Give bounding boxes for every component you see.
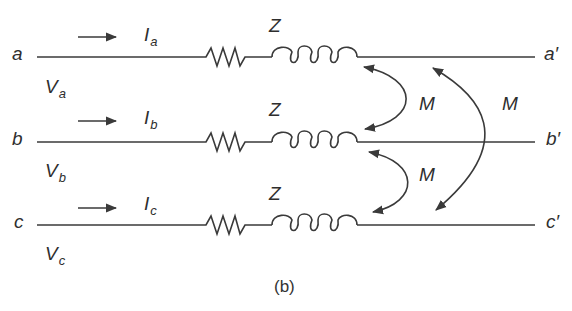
phase-line-c (37, 214, 535, 234)
inductor-a-icon (272, 46, 357, 63)
resistor-a-icon (200, 48, 272, 66)
node-label-c-prime: c′ (546, 212, 559, 231)
node-label-b: b (12, 129, 23, 148)
circuit-diagram (0, 0, 572, 311)
voltage-label-c: Vc (45, 244, 65, 263)
impedance-label-b: Z (269, 100, 281, 119)
resistor-b-icon (200, 133, 272, 151)
node-label-a-prime: a′ (544, 44, 558, 63)
current-label-a: Ia (144, 25, 158, 44)
mutual-arrow-bc-icon (369, 152, 408, 212)
mutual-label-ab: M (419, 94, 435, 113)
mutual-arrow-ac-icon (433, 68, 485, 210)
voltage-label-a: Va (45, 77, 66, 96)
resistor-c-icon (200, 216, 272, 234)
mutual-label-ac: M (502, 94, 518, 113)
inductor-c-icon (272, 214, 357, 231)
node-label-a: a (12, 44, 23, 63)
impedance-label-c: Z (269, 184, 281, 203)
impedance-label-a: Z (269, 16, 281, 35)
mutual-label-bc: M (419, 165, 435, 184)
inductor-b-icon (272, 131, 357, 148)
voltage-label-b: Vb (45, 161, 66, 180)
mutual-arrow-ab-icon (364, 67, 406, 129)
figure-caption: (b) (274, 278, 295, 295)
current-label-b: Ib (144, 108, 158, 127)
phase-line-a (37, 46, 535, 66)
current-label-c: Ic (144, 194, 157, 213)
phase-line-b (37, 131, 535, 151)
node-label-b-prime: b′ (546, 129, 560, 148)
node-label-c: c (14, 212, 24, 231)
